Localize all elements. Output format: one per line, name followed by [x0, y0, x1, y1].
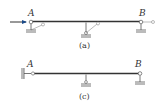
pin-support-icon: [81, 75, 91, 88]
sliding-clamp-icon: [21, 68, 35, 79]
pin-support-icon: [81, 22, 100, 38]
label-a-left: A: [27, 8, 35, 18]
caption-a: (a): [79, 41, 90, 50]
label-b-right: B: [134, 59, 142, 69]
label-b-right: B: [138, 8, 146, 18]
diagram-c: A B (c): [21, 59, 145, 101]
diagram-a: A B: [10, 8, 155, 50]
caption-c: (c): [79, 92, 90, 101]
axial-arrow-icon: [10, 20, 27, 24]
label-a-left: A: [26, 59, 34, 69]
